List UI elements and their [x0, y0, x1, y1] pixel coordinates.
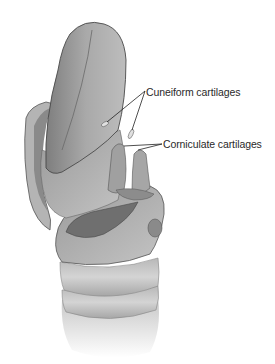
label-cuneiform-cartilages: Cuneiform cartilages [146, 86, 240, 98]
trachea-rings [60, 258, 159, 358]
arytenoid-cartilages [108, 144, 154, 200]
larynx-illustration [0, 0, 275, 364]
label-corniculate-cartilages: Corniculate cartilages [163, 138, 262, 150]
